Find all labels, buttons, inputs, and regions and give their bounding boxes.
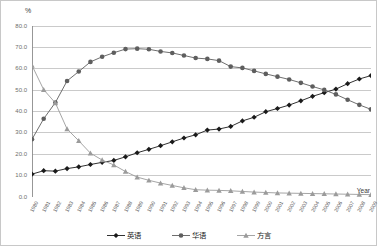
x-axis-title: Year xyxy=(357,187,370,194)
y-tick-label: 0.0 xyxy=(3,194,27,200)
x-tick-label: 2009 xyxy=(365,200,379,219)
plot-area xyxy=(32,26,371,197)
legend-marker-triangle-icon xyxy=(237,231,255,240)
legend-label: 方言 xyxy=(257,232,271,239)
y-tick-label: 50.0 xyxy=(3,87,27,93)
y-tick-label: 20.0 xyxy=(3,151,27,157)
chart-container: % 0.010.020.030.040.050.060.070.080.0 19… xyxy=(0,0,377,246)
y-tick-label: 40.0 xyxy=(3,108,27,114)
chart-legend: 英语华语方言 xyxy=(1,231,376,240)
legend-label: 英语 xyxy=(127,232,141,239)
legend-item-2[interactable]: 华语 xyxy=(172,231,206,240)
y-tick-label: 60.0 xyxy=(3,65,27,71)
y-tick-label: 80.0 xyxy=(3,23,27,29)
gridlines xyxy=(32,26,371,197)
y-axis-unit-label: % xyxy=(25,7,31,14)
y-tick-label: 10.0 xyxy=(3,172,27,178)
chart-svg xyxy=(32,26,371,197)
legend-marker-diamond-icon xyxy=(107,231,125,240)
legend-item-1[interactable]: 英语 xyxy=(107,231,141,240)
series-3 xyxy=(32,63,371,197)
y-tick-label: 70.0 xyxy=(3,44,27,50)
legend-label: 华语 xyxy=(192,232,206,239)
legend-item-3[interactable]: 方言 xyxy=(237,231,271,240)
legend-marker-circle-icon xyxy=(172,231,190,240)
y-tick-label: 30.0 xyxy=(3,129,27,135)
